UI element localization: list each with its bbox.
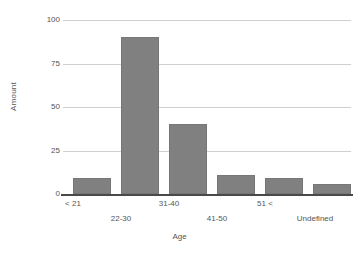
x-tick-label-lt-21: < 21 xyxy=(43,199,103,208)
y-tick-label: 25 xyxy=(26,147,60,155)
x-axis-title: Age xyxy=(0,232,359,241)
bar-chart: Amount 100 75 50 25 0 < 21 22-30 31-40 4… xyxy=(0,0,359,254)
bar-lt-21[interactable] xyxy=(73,178,111,194)
x-tick-label-41-50: 41-50 xyxy=(187,214,247,223)
y-axis-title: Amount xyxy=(9,67,18,127)
plot-area xyxy=(63,20,351,194)
x-tick-label-undefined: Undefined xyxy=(283,214,347,223)
bar-31-40[interactable] xyxy=(169,124,207,194)
bar-51-gt[interactable] xyxy=(265,178,303,194)
bar-22-30[interactable] xyxy=(121,37,159,194)
y-tick-label: 75 xyxy=(26,60,60,68)
bar-undefined[interactable] xyxy=(313,184,351,194)
x-tick-label-22-30: 22-30 xyxy=(91,214,151,223)
y-tick-label: 100 xyxy=(26,16,60,24)
y-tick-label: 50 xyxy=(26,103,60,111)
x-axis-line xyxy=(61,194,353,196)
y-tick-label: 0 xyxy=(26,190,60,198)
bar-series xyxy=(63,20,351,194)
x-tick-label-51-gt: 51 < xyxy=(235,199,295,208)
bar-41-50[interactable] xyxy=(217,175,255,194)
x-tick-label-31-40: 31-40 xyxy=(139,199,199,208)
